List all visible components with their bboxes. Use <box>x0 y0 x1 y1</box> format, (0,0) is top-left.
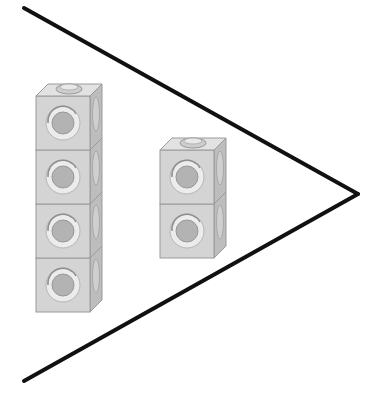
greater-than-diagram <box>0 0 381 409</box>
left-cube-stack <box>36 84 102 312</box>
right-cube-stack <box>160 138 226 258</box>
cube-cap <box>160 138 226 150</box>
cube-cap <box>36 84 102 96</box>
